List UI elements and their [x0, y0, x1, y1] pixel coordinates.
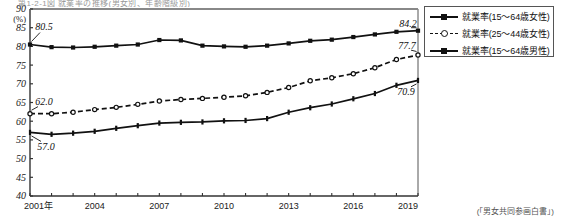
data-point-marker [243, 45, 247, 49]
legend-key-solid-square-icon [430, 11, 458, 22]
data-point-marker [114, 44, 118, 48]
data-point-marker [136, 42, 140, 46]
data-point-marker [179, 38, 183, 42]
chart-figure: 第1-2-1図 就業率の推移(男女別、年齢階級別) 90858075706560… [0, 0, 562, 220]
series-layer [28, 29, 420, 137]
data-point-marker [309, 105, 311, 110]
label-male-end: 84.2 [399, 18, 417, 29]
data-point-marker [28, 112, 32, 116]
series-line-2 [30, 80, 418, 134]
x-tick-label: 2010 [214, 201, 234, 211]
data-point-marker [115, 126, 117, 131]
data-point-marker [352, 96, 354, 101]
y-tick-label: 50 [16, 153, 26, 164]
data-point-marker [157, 38, 161, 42]
data-point-marker [49, 112, 53, 116]
chart-legend: 就業率(15～64歳女性) 就業率(25～44歳女性) 就業率(15～64歳男性… [424, 6, 554, 57]
data-point-marker [93, 45, 97, 49]
data-point-marker [330, 38, 334, 42]
legend-label-2: 就業率(15～64歳男性) [462, 44, 550, 57]
y-tick-label: 45 [16, 172, 26, 183]
label-women2544-start: 62.0 [35, 96, 53, 107]
data-point-marker [222, 44, 226, 48]
y-tick-label: 90 [16, 3, 26, 14]
data-point-marker [94, 129, 96, 134]
x-tick-label: 2016 [343, 201, 363, 211]
data-point-marker [308, 79, 312, 83]
data-point-marker [265, 44, 269, 48]
data-point-marker [72, 131, 74, 136]
legend-item-0: 就業率(15～64歳女性) [425, 9, 553, 24]
data-point-marker [394, 57, 398, 61]
y-tick-label: 70 [16, 78, 26, 89]
data-point-marker [136, 102, 140, 106]
data-point-marker [114, 105, 118, 109]
y-tick-label: 65 [16, 97, 26, 108]
data-point-marker [351, 72, 355, 76]
data-point-marker [351, 35, 355, 39]
y-tick-label: 75 [16, 60, 26, 71]
label-women2544-end: 77.7 [398, 40, 417, 51]
data-point-marker [71, 45, 75, 49]
data-point-marker [200, 44, 204, 48]
label-women1564-end: 70.9 [397, 86, 415, 97]
y-tick-label: 55 [16, 134, 26, 145]
data-point-marker [331, 101, 333, 106]
data-point-marker [93, 108, 97, 112]
data-point-marker [266, 116, 268, 121]
label-women1564-start: 57.0 [37, 141, 55, 152]
data-point-marker [287, 41, 291, 45]
legend-item-1: 就業率(25～44歳女性) [425, 26, 553, 41]
y-axis-unit: (%) [13, 14, 26, 24]
data-point-marker [265, 90, 269, 94]
data-point-marker [157, 99, 161, 103]
x-tick-label: 2001年 [24, 200, 53, 211]
label-male-start: 80.5 [35, 21, 53, 32]
data-point-marker [158, 120, 160, 125]
data-point-marker [71, 110, 75, 114]
x-tick-label: 2013 [279, 201, 299, 211]
axis-layer: 9085807570656055504540(%)2001年2004200720… [13, 3, 418, 211]
data-point-marker [223, 118, 225, 123]
data-point-marker [243, 94, 247, 98]
data-point-marker [201, 119, 203, 124]
data-point-marker [287, 85, 291, 89]
data-point-marker [179, 97, 183, 101]
data-point-marker [308, 39, 312, 43]
data-point-marker [330, 76, 334, 80]
y-tick-label: 80 [16, 41, 26, 52]
y-tick-label: 40 [16, 190, 26, 201]
x-tick-label: 2004 [85, 201, 105, 211]
data-point-marker [373, 32, 377, 36]
source-note: (「男女共同参画白書」) [477, 205, 554, 216]
legend-key-solid-plus-icon [430, 45, 458, 56]
data-point-marker [49, 45, 53, 49]
data-point-marker [200, 96, 204, 100]
legend-item-2: 就業率(15～64歳男性) [425, 43, 553, 58]
data-point-marker [137, 123, 139, 128]
data-point-marker [374, 91, 376, 96]
legend-label-0: 就業率(15～64歳女性) [462, 10, 550, 23]
x-tick-label: 2019 [398, 201, 418, 211]
legend-key-dashed-circle-icon [430, 28, 458, 39]
data-point-marker [244, 118, 246, 123]
legend-label-1: 就業率(25～44歳女性) [462, 27, 550, 40]
y-tick-label: 60 [16, 116, 26, 127]
data-point-marker [29, 130, 31, 135]
data-point-marker [417, 78, 419, 83]
data-point-marker [180, 120, 182, 125]
data-point-marker [394, 30, 398, 34]
data-point-marker [288, 110, 290, 115]
data-point-marker [28, 42, 32, 46]
data-point-marker [416, 29, 420, 33]
data-point-marker [416, 53, 420, 57]
data-point-marker [373, 66, 377, 70]
data-point-marker [50, 132, 52, 137]
data-point-marker [222, 95, 226, 99]
x-tick-label: 2007 [149, 201, 169, 211]
series-line-1 [30, 55, 418, 114]
